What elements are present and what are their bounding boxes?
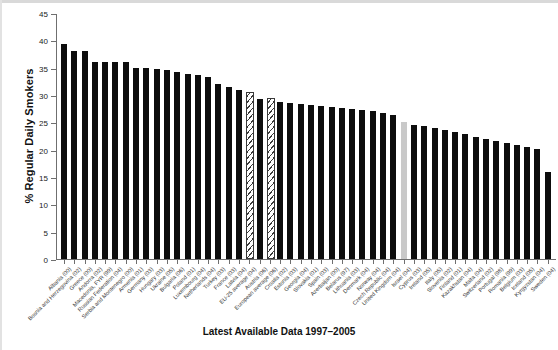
bar	[174, 72, 180, 259]
bar-chart: % Regular Daily Smokers 0510152025303540…	[0, 0, 558, 350]
bar	[493, 141, 499, 259]
y-axis-tick	[51, 123, 56, 124]
x-axis-tick	[383, 260, 384, 264]
y-axis-tick-label: 15	[39, 174, 48, 183]
y-axis-tick	[51, 151, 56, 152]
x-axis-tick	[352, 260, 353, 264]
x-axis-tick	[373, 260, 374, 264]
bar	[545, 172, 551, 259]
bar	[514, 145, 520, 259]
x-axis-tick	[260, 260, 261, 264]
x-axis-tick	[414, 260, 415, 264]
x-axis-tick	[74, 260, 75, 264]
bar	[215, 84, 221, 259]
x-axis-tick	[126, 260, 127, 264]
x-axis-tick	[146, 260, 147, 264]
bar	[226, 87, 232, 259]
bar	[462, 134, 468, 259]
bar	[308, 105, 314, 259]
x-axis-tick	[64, 260, 65, 264]
x-axis-tick	[476, 260, 477, 264]
bar	[534, 149, 540, 259]
bar	[164, 70, 170, 259]
y-axis-tick	[51, 205, 56, 206]
bar	[257, 99, 263, 259]
bar	[329, 107, 335, 259]
bar	[143, 68, 149, 259]
x-axis-tick	[136, 260, 137, 264]
bar	[298, 104, 304, 259]
x-axis-tick	[218, 260, 219, 264]
bar	[102, 62, 108, 259]
bar	[432, 128, 438, 259]
x-axis-tick	[393, 260, 394, 264]
bar	[318, 106, 324, 259]
y-axis-tick-label: 0	[44, 256, 48, 265]
bar	[246, 92, 254, 259]
bar	[411, 125, 417, 259]
bar	[154, 69, 160, 259]
bar	[287, 103, 293, 259]
y-axis-tick	[51, 233, 56, 234]
x-axis-tick	[270, 260, 271, 264]
bar	[236, 90, 242, 259]
bar	[401, 122, 407, 259]
bar	[370, 111, 376, 259]
x-axis-tick	[177, 260, 178, 264]
x-axis-tick	[404, 260, 405, 264]
bar	[133, 68, 139, 259]
x-axis-tick	[517, 260, 518, 264]
bar	[185, 74, 191, 259]
x-axis-tick	[311, 260, 312, 264]
x-axis-tick	[537, 260, 538, 264]
y-axis-tick	[51, 96, 56, 97]
bar	[92, 62, 98, 259]
x-axis-tick	[424, 260, 425, 264]
y-axis-tick-label: 20	[39, 146, 48, 155]
x-axis-tick	[507, 260, 508, 264]
bar	[82, 51, 88, 259]
x-axis-tick	[435, 260, 436, 264]
y-axis-tick-label: 40	[39, 37, 48, 46]
y-axis-tick-label: 30	[39, 92, 48, 101]
x-axis-tick	[105, 260, 106, 264]
bar	[349, 109, 355, 259]
x-axis-tick	[85, 260, 86, 264]
x-axis-tick	[239, 260, 240, 264]
x-axis-tick	[332, 260, 333, 264]
bar	[61, 44, 67, 259]
y-axis-tick	[51, 14, 56, 15]
bar	[421, 126, 427, 259]
y-axis-tick-label: 25	[39, 119, 48, 128]
bar	[473, 137, 479, 259]
x-axis-category-labels: Albania (00)Bosnia and Herzegovina (02)G…	[56, 266, 558, 326]
bar-series	[57, 14, 556, 259]
bar	[483, 139, 489, 259]
bar	[390, 115, 396, 259]
x-axis-tick	[321, 260, 322, 264]
bar	[123, 62, 129, 259]
bar	[339, 108, 345, 259]
x-axis-tick	[342, 260, 343, 264]
x-axis-tick	[465, 260, 466, 264]
x-axis-line	[56, 259, 556, 260]
x-axis-tick	[188, 260, 189, 264]
bar	[442, 130, 448, 259]
x-axis-tick	[249, 260, 250, 264]
bar	[524, 147, 530, 259]
bar	[112, 62, 118, 259]
bar	[359, 110, 365, 259]
bar	[277, 102, 283, 259]
y-axis-tick	[51, 178, 56, 179]
x-axis-tick	[198, 260, 199, 264]
x-axis-tick	[301, 260, 302, 264]
y-axis-tick	[51, 69, 56, 70]
bar	[267, 98, 275, 259]
x-axis-tick	[157, 260, 158, 264]
y-axis-tick-label: 35	[39, 64, 48, 73]
x-axis-tick	[496, 260, 497, 264]
y-axis-tick	[51, 260, 56, 261]
x-axis-tick	[445, 260, 446, 264]
y-axis-tick	[51, 41, 56, 42]
x-axis-tick	[527, 260, 528, 264]
